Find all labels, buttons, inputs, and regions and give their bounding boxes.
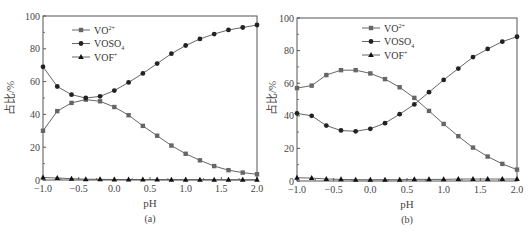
y-tick-label: 20: [284, 143, 294, 154]
legend: VO2+VOSO4VOF+: [72, 25, 124, 63]
x-axis-label: pH: [400, 198, 414, 210]
x-tick-label: 0.5: [401, 184, 414, 195]
x-tick-label: 2.0: [251, 183, 264, 194]
y-tick-label: 20: [30, 142, 40, 153]
legend: VO2+VOSO4VOF+: [362, 23, 414, 61]
x-tick-label: 0.5: [144, 183, 157, 194]
x-tick-label: 1.5: [474, 184, 487, 195]
y-tick-label: 80: [284, 45, 294, 56]
x-tick-label: −1.0: [288, 184, 306, 195]
y-axis-label: 占比/%: [3, 81, 16, 115]
y-tick-label: 60: [30, 76, 40, 87]
line-chart-a: 020406080100−1.0−0.50.00.51.01.52.0pH占比/…: [0, 0, 266, 237]
y-axis-label: 占比/%: [266, 81, 278, 115]
series-voso4: [41, 23, 260, 101]
chart-panel-a: 020406080100−1.0−0.50.00.51.01.52.0pH占比/…: [0, 0, 266, 237]
panel-caption: (a): [144, 213, 155, 225]
series-vo2: [295, 68, 519, 172]
chart-panel-b: 020406080100−1.0−0.50.00.51.01.52.0pH占比/…: [266, 0, 532, 237]
legend-label: VOSO4: [384, 36, 414, 49]
x-tick-label: −0.5: [325, 184, 343, 195]
x-axis-label: pH: [143, 197, 157, 209]
y-tick-label: 100: [25, 11, 40, 22]
legend-label: VOF+: [384, 50, 408, 61]
x-tick-label: −1.0: [34, 183, 52, 194]
legend-label: VOF+: [94, 52, 118, 63]
y-tick-label: 100: [279, 13, 294, 24]
x-tick-label: −0.5: [70, 183, 88, 194]
y-tick-label: 80: [30, 43, 40, 54]
legend-label: VOSO4: [94, 38, 124, 51]
y-tick-label: 60: [284, 78, 294, 89]
legend-label: VO2+: [94, 25, 115, 36]
x-tick-label: 2.0: [511, 184, 524, 195]
y-tick-label: 40: [30, 109, 40, 120]
panel-caption: (b): [401, 214, 413, 226]
series-vo2: [41, 97, 259, 176]
line-chart-b: 020406080100−1.0−0.50.00.51.01.52.0pH占比/…: [266, 0, 532, 237]
legend-label: VO2+: [384, 23, 405, 34]
x-tick-label: 1.0: [179, 183, 192, 194]
x-tick-label: 0.0: [364, 184, 377, 195]
y-tick-label: 40: [284, 110, 294, 121]
x-tick-label: 0.0: [108, 183, 121, 194]
x-tick-label: 1.5: [215, 183, 228, 194]
plot-frame: [43, 16, 257, 180]
x-tick-label: 1.0: [437, 184, 450, 195]
